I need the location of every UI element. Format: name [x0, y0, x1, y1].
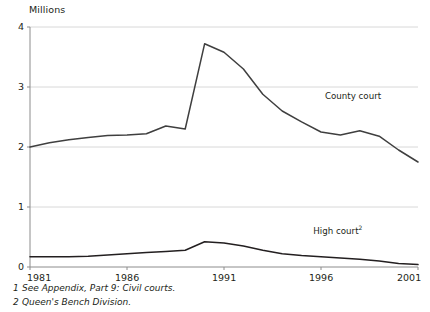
series-line-high-court: [30, 242, 418, 265]
footnote-number: 2: [13, 296, 22, 310]
footnote-item: 1See Appendix, Part 9: Civil courts.: [13, 282, 175, 296]
y-tick-label: 1: [4, 201, 24, 212]
chart-figure: Millions 01234 19811986199119962001 Coun…: [0, 0, 430, 312]
footnote-number: 1: [13, 282, 22, 296]
series-label-high-court: High court2: [313, 226, 362, 236]
x-tick-label: 2001: [397, 272, 421, 283]
y-tick-label: 4: [4, 21, 24, 32]
series-line-county-court: [30, 44, 418, 162]
footnotes-block: 1See Appendix, Part 9: Civil courts. 2Qu…: [13, 282, 175, 309]
footnote-item: 2Queen's Bench Division.: [13, 296, 175, 310]
y-tick-label: 0: [4, 261, 24, 272]
series-label-county-court: County court: [325, 91, 381, 101]
chart-plot-area: [0, 0, 430, 312]
y-axis-title: Millions: [29, 4, 65, 15]
x-tick-label: 1991: [212, 272, 236, 283]
footnote-text: Queen's Bench Division.: [22, 297, 131, 307]
footnote-text: See Appendix, Part 9: Civil courts.: [22, 283, 175, 293]
y-tick-label: 3: [4, 81, 24, 92]
y-tick-label: 2: [4, 141, 24, 152]
x-tick-label: 1996: [309, 272, 333, 283]
footnote-marker: 2: [359, 224, 363, 231]
